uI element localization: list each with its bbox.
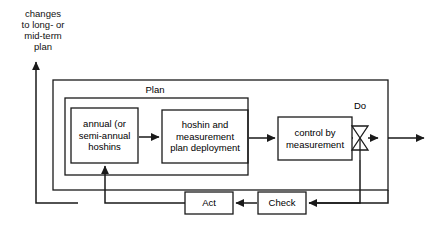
control-label: control by measurement [278,117,352,160]
diagram-canvas: changes to long- or mid-term plan Plan D… [0,0,435,235]
do-label: Do [340,100,380,111]
valve-bowtie-icon [352,126,368,160]
plan-label: Plan [125,84,185,95]
feedback-outer-to-check [309,190,388,203]
check-label: Check [258,192,306,214]
deployment-label: hoshin and measurement plan deployment [162,110,248,163]
feedback-valve-to-check [309,160,360,203]
annual-hoshins-label: annual (or semi-annual hoshins [71,108,138,163]
changes-annotation: changes to long- or mid-term plan [4,8,82,52]
feedback-act-to-annual [105,166,185,203]
act-label: Act [185,192,233,214]
